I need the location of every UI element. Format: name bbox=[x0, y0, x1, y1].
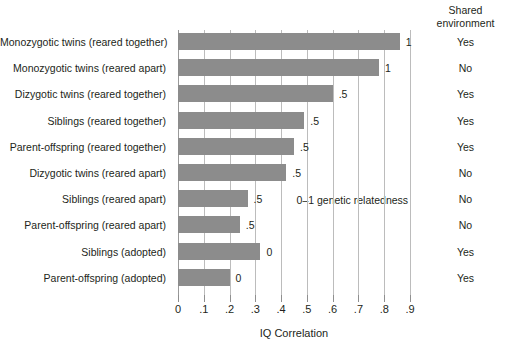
shared-environment-value: Yes bbox=[424, 36, 507, 48]
shared-environment-value: Yes bbox=[424, 115, 507, 127]
x-axis-tick-label: .6 bbox=[328, 303, 337, 316]
x-axis-tick bbox=[255, 295, 256, 302]
category-label: Dizygotic twins (reared apart) bbox=[0, 167, 166, 179]
x-axis-tick-label: 0 bbox=[175, 303, 181, 316]
x-axis-tick-label: .7 bbox=[354, 303, 363, 316]
shared-environment-header: Shared environment bbox=[424, 4, 507, 30]
x-axis-tick-label: .4 bbox=[277, 303, 286, 316]
bar-value-label: .5 bbox=[292, 167, 301, 179]
shared-environment-value: No bbox=[424, 167, 507, 179]
x-axis-tick-label: .3 bbox=[251, 303, 260, 316]
category-label: Monozygotic twins (reared together) bbox=[0, 36, 166, 48]
bar-value-label: 0 bbox=[236, 272, 242, 284]
x-axis-tick bbox=[281, 295, 282, 302]
shared-environment-value: Yes bbox=[424, 246, 507, 258]
bar bbox=[178, 269, 230, 286]
shared-environment-header-line2: environment bbox=[424, 17, 507, 30]
shared-environment-value-list: YesNoYesYesYesNoNoNoYesYes bbox=[424, 30, 507, 295]
x-axis-tick-label: .1 bbox=[199, 303, 208, 316]
bar bbox=[178, 243, 260, 260]
shared-environment-value: No bbox=[424, 62, 507, 74]
bar-value-label: 1 bbox=[406, 36, 412, 48]
shared-environment-value: No bbox=[424, 219, 507, 231]
x-axis-tick bbox=[178, 295, 179, 302]
genetic-relatedness-annotation: 0–1 genetic relatedness bbox=[297, 194, 409, 206]
shared-environment-header-line1: Shared bbox=[424, 4, 507, 17]
category-label: Parent-offspring (reared apart) bbox=[0, 219, 166, 231]
x-axis-tick bbox=[204, 295, 205, 302]
bar bbox=[178, 138, 294, 155]
plot-area: 0–1 genetic relatedness 11.5.5.5.5.5.500 bbox=[178, 30, 410, 295]
x-axis: 0.1.2.3.4.5.6.7.8.9 bbox=[178, 295, 410, 305]
shared-environment-value: Yes bbox=[424, 88, 507, 100]
x-axis-tick bbox=[333, 295, 334, 302]
x-axis-tick-label: .9 bbox=[405, 303, 414, 316]
x-axis-tick bbox=[358, 295, 359, 302]
x-axis-tick bbox=[307, 295, 308, 302]
shared-environment-value: Yes bbox=[424, 272, 507, 284]
category-label: Siblings (reared together) bbox=[0, 115, 166, 127]
x-axis-tick-label: .2 bbox=[225, 303, 234, 316]
bar bbox=[178, 164, 286, 181]
bar bbox=[178, 112, 304, 129]
bar-value-label: 0 bbox=[266, 246, 272, 258]
shared-environment-value: No bbox=[424, 193, 507, 205]
x-axis-tick bbox=[410, 295, 411, 302]
x-axis-tick bbox=[384, 295, 385, 302]
bar bbox=[178, 59, 379, 76]
bar bbox=[178, 85, 333, 102]
bar bbox=[178, 216, 240, 233]
bar bbox=[178, 33, 400, 50]
category-label: Siblings (reared apart) bbox=[0, 193, 166, 205]
iq-correlation-chart: Shared environment Monozygotic twins (re… bbox=[0, 0, 507, 348]
bar-value-label: .5 bbox=[300, 141, 309, 153]
shared-environment-value: Yes bbox=[424, 141, 507, 153]
gridline bbox=[410, 30, 411, 295]
x-axis-tick-label: .8 bbox=[380, 303, 389, 316]
category-label: Parent-offspring (reared together) bbox=[0, 141, 166, 153]
bar-value-label: .5 bbox=[310, 115, 319, 127]
x-axis-tick-label: .5 bbox=[302, 303, 311, 316]
x-axis-title: IQ Correlation bbox=[178, 327, 410, 339]
category-label: Parent-offspring (adopted) bbox=[0, 272, 166, 284]
category-label: Dizygotic twins (reared together) bbox=[0, 88, 166, 100]
x-axis-tick bbox=[230, 295, 231, 302]
bar bbox=[178, 190, 248, 207]
bar-value-label: .5 bbox=[339, 88, 348, 100]
category-label-list: Monozygotic twins (reared together)Monoz… bbox=[0, 30, 172, 295]
bar-value-label: .5 bbox=[246, 219, 255, 231]
category-label: Monozygotic twins (reared apart) bbox=[0, 62, 166, 74]
bar-value-label: 1 bbox=[385, 62, 391, 74]
category-label: Siblings (adopted) bbox=[0, 246, 166, 258]
bar-value-label: .5 bbox=[254, 193, 263, 205]
